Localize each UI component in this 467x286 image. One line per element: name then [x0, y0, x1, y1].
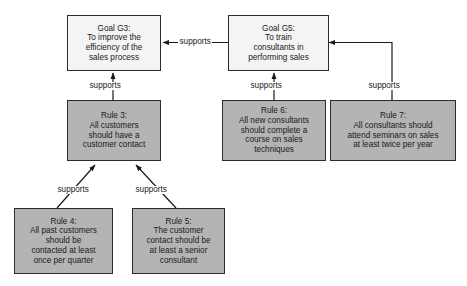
edge-label-rule4-to-rule3: supports	[56, 186, 90, 194]
node-rule-5[interactable]: Rule 5: The customer contact should be a…	[132, 208, 225, 274]
node-goal-g5[interactable]: Goal G5: To train consultants in perform…	[228, 15, 329, 71]
edge-label-g5-to-g3: supports	[178, 38, 212, 46]
node-rule-5-text: Rule 5: The customer contact should be a…	[146, 217, 210, 265]
edge-label-rule5-to-rule3: supports	[134, 186, 168, 194]
diagram-canvas: Goal G3: To improve the efficiency of th…	[0, 0, 467, 286]
node-rule-7[interactable]: Rule 7: All consultants should attend se…	[330, 100, 456, 161]
node-goal-g3[interactable]: Goal G3: To improve the efficiency of th…	[67, 15, 161, 71]
node-rule-6[interactable]: Rule 6: All new consultants should compl…	[222, 100, 326, 161]
edge-label-rule7-to-g5: supports	[367, 82, 401, 90]
node-rule-4-text: Rule 4: All past customers should be con…	[30, 217, 97, 265]
node-rule-4[interactable]: Rule 4: All past customers should be con…	[14, 208, 113, 274]
node-rule-6-text: Rule 6: All new consultants should compl…	[239, 106, 309, 154]
node-rule-7-text: Rule 7: All consultants should attend se…	[347, 111, 438, 150]
node-rule-3[interactable]: Rule 3: All customers should have a cust…	[67, 100, 161, 161]
edge-label-rule3-to-g3: supports	[88, 82, 122, 90]
edge-label-rule6-to-g5: supports	[249, 82, 283, 90]
node-rule-3-text: Rule 3: All customers should have a cust…	[83, 111, 145, 150]
node-goal-g5-text: Goal G5: To train consultants in perform…	[248, 24, 309, 63]
node-goal-g3-text: Goal G3: To improve the efficiency of th…	[86, 24, 143, 63]
edge-rule7-to-g5	[329, 43, 392, 101]
